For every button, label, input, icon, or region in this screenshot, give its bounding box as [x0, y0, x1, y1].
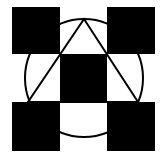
square-bottom-left	[12, 102, 60, 151]
square-top-left	[12, 7, 60, 54]
square-bottom-right	[107, 102, 155, 151]
square-center	[60, 54, 107, 102]
square-top-right	[107, 7, 155, 54]
checkerboard-circle-triangle-diagram	[0, 0, 161, 163]
